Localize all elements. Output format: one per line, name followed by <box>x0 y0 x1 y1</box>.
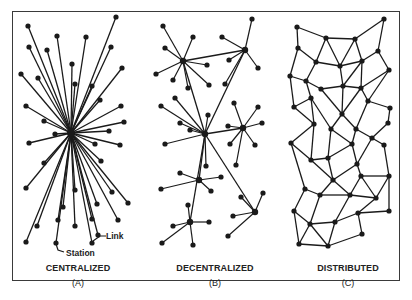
link-line <box>290 48 298 76</box>
station-node <box>89 240 94 245</box>
link-line <box>180 123 205 134</box>
station-node <box>303 78 308 83</box>
station-node <box>72 81 77 86</box>
link-line <box>328 234 362 246</box>
station-node <box>225 233 230 238</box>
station-node <box>35 75 40 80</box>
link-line <box>199 177 221 180</box>
link-line <box>299 244 328 246</box>
station-node <box>287 73 292 78</box>
station-node <box>23 103 28 108</box>
link-line <box>298 48 316 62</box>
link-line <box>294 107 314 124</box>
station-node <box>358 85 363 90</box>
network-graphs <box>0 0 412 300</box>
link-line <box>355 19 384 39</box>
station-node <box>323 35 328 40</box>
station-node <box>119 65 124 70</box>
station-node <box>26 140 31 145</box>
link-line <box>368 101 390 108</box>
hub-node <box>242 47 248 53</box>
station-node <box>313 59 318 64</box>
station-node <box>125 200 130 205</box>
link-line <box>331 114 342 129</box>
link-line <box>328 222 335 246</box>
station-node <box>170 223 175 228</box>
link-line <box>297 27 298 48</box>
station-node <box>337 63 342 68</box>
station-node <box>97 97 102 102</box>
station-node <box>259 120 264 125</box>
link-line <box>321 89 342 114</box>
station-node <box>231 100 236 105</box>
link-line <box>190 222 193 245</box>
link-line <box>310 224 328 246</box>
hub-node <box>180 58 186 64</box>
link-line <box>342 114 356 129</box>
station-node <box>373 195 378 200</box>
link-line <box>320 180 333 195</box>
station-node <box>162 45 167 50</box>
link-line <box>358 213 362 234</box>
link-line <box>294 98 311 107</box>
station-node <box>206 219 211 224</box>
station-node <box>54 33 59 38</box>
link-line <box>343 86 361 88</box>
hub-node <box>196 177 202 183</box>
station-node <box>230 213 235 218</box>
station-node <box>233 162 238 167</box>
link-line <box>26 133 71 242</box>
station-node <box>358 173 363 178</box>
station-node <box>226 57 231 62</box>
station-node <box>113 14 118 19</box>
station-node <box>72 223 77 228</box>
link-line <box>245 50 258 68</box>
hub-node <box>240 125 246 131</box>
link-line <box>310 195 320 224</box>
link-line <box>316 62 340 66</box>
station-node <box>325 155 330 160</box>
station-node <box>34 223 39 228</box>
link-line <box>352 144 357 164</box>
station-node <box>359 58 364 63</box>
link-line <box>205 134 206 166</box>
link-line <box>165 48 183 61</box>
station-node <box>89 216 94 221</box>
station-node <box>330 177 335 182</box>
station-node <box>255 104 260 109</box>
station-node <box>162 141 167 146</box>
station-node <box>89 83 94 88</box>
station-node <box>296 241 301 246</box>
panel-title-centralized: CENTRALIZED <box>46 263 111 273</box>
hub-node <box>187 219 193 225</box>
link-line <box>361 176 376 198</box>
link-line <box>350 176 361 195</box>
link-line <box>316 38 326 62</box>
link-line <box>342 88 361 114</box>
station-node <box>387 105 392 110</box>
station-node <box>18 71 23 76</box>
link-line <box>326 38 355 39</box>
station-node <box>118 103 123 108</box>
station-node <box>294 24 299 29</box>
link-line <box>297 27 326 38</box>
decentralized-network <box>153 16 265 247</box>
station-node <box>190 34 195 39</box>
link-line <box>321 86 343 89</box>
hub-link-line <box>205 128 243 134</box>
station-node <box>41 118 46 123</box>
station-node <box>26 44 31 49</box>
link-line <box>291 143 305 189</box>
station-node <box>249 16 254 21</box>
station-node <box>203 163 208 168</box>
station-node <box>291 208 296 213</box>
centralized-network <box>18 14 130 245</box>
station-node <box>227 141 232 146</box>
station-node <box>260 190 265 195</box>
station-node <box>225 123 230 128</box>
link-line <box>245 19 252 50</box>
station-node <box>208 188 213 193</box>
station-annotation: Station <box>66 248 95 258</box>
station-node <box>219 34 224 39</box>
link-line <box>340 39 355 66</box>
